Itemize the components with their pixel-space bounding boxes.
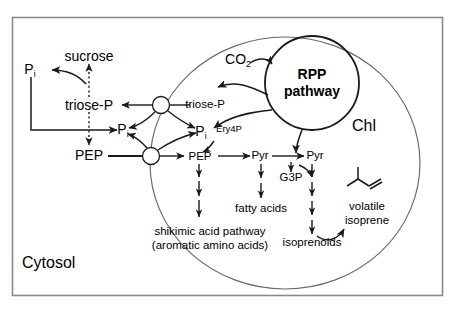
stromal-triose-p-label: triose-P	[185, 99, 225, 111]
isoprene-structure	[347, 167, 382, 189]
arrow-rpp-to-g3p	[296, 130, 302, 153]
cytosolic-triose-p-label: triose-P	[65, 98, 113, 112]
volatile-isoprene-line1: volatile	[345, 200, 389, 214]
shikimic-line2: (aromatic amino acids)	[152, 239, 268, 253]
volatile-isoprene-label: volatile isoprene	[345, 200, 389, 227]
isoprenoids-label: isoprenoids	[283, 237, 342, 249]
pi-symbol: P	[195, 123, 204, 139]
chloroplast-label: Chl	[352, 118, 376, 134]
shikimic-acid-pathway-label: shikimic acid pathway (aromatic amino ac…	[152, 225, 268, 252]
arrow-sucrose-to-pi	[52, 70, 86, 84]
pep-phosphate-translocator	[143, 148, 160, 165]
stromal-pi-label: Pi	[195, 124, 206, 140]
cytosolic-pep-label: PEP	[75, 148, 103, 162]
stromal-pep-label: PEP	[188, 151, 211, 163]
arrow-translocator-to-cytosolic-pi	[129, 112, 155, 128]
rpp-pathway-label: RPP pathway	[284, 66, 340, 99]
cytosolic-pi-upper-label: Pi	[24, 62, 35, 78]
rpp-pathway-line1: RPP	[284, 66, 340, 83]
pi-subscript: i	[34, 69, 36, 79]
cytosolic-pi-mid-label: Pi	[117, 122, 128, 138]
arrow-lower-translocator-to-cytosolic-pi	[128, 134, 147, 148]
volatile-isoprene-line2: isoprene	[345, 214, 389, 228]
cytosol-label: Cytosol	[22, 255, 75, 271]
rpp-pathway-line2: pathway	[284, 83, 340, 100]
g3p-label: G3P	[279, 172, 302, 184]
triose-phosphate-translocator	[153, 97, 170, 114]
pi-subscript: i	[127, 129, 129, 139]
co2-label: CO2	[225, 52, 251, 68]
pi-symbol: P	[24, 61, 33, 77]
arrow-translocator-to-stromal-pi	[168, 111, 195, 128]
arrow-lower-translocator-to-stromal-pi	[158, 133, 196, 150]
fatty-acids-label: fatty acids	[235, 203, 287, 215]
ery4p-label: Ery4P	[216, 124, 242, 134]
co2-symbol: CO	[225, 51, 246, 67]
pi-subscript: i	[205, 131, 207, 141]
cytosolic-sucrose-label: sucrose	[64, 49, 113, 63]
pi-symbol: P	[117, 121, 126, 137]
stromal-pyr-left-label: Pyr	[251, 150, 268, 162]
co2-subscript: 2	[246, 59, 251, 69]
arrow-rpp-to-triosep	[218, 84, 268, 95]
stromal-pyr-right-label: Pyr	[306, 150, 323, 162]
shikimic-line1: shikimic acid pathway	[152, 225, 268, 239]
pathway-diagram: Cytosol Chl sucrose triose-P PEP Pi Pi t…	[0, 0, 459, 311]
